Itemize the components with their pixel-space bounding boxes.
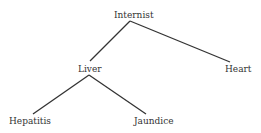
edge-liver-jaundice bbox=[89, 75, 146, 114]
edge-internist-heart bbox=[130, 21, 230, 62]
node-heart: Heart bbox=[225, 64, 251, 74]
node-hepatitis: Hepatitis bbox=[9, 116, 51, 126]
edge-internist-liver bbox=[90, 21, 130, 61]
node-internist: Internist bbox=[114, 10, 154, 20]
edge-liver-hepatitis bbox=[33, 75, 89, 114]
node-jaundice: Jaundice bbox=[134, 116, 174, 126]
node-liver: Liver bbox=[78, 64, 102, 74]
